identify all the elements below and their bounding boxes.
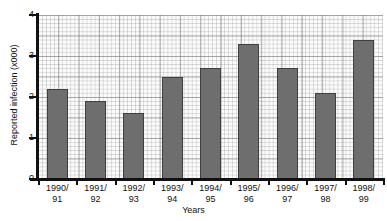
x-category-label-line: 1990/ <box>38 183 76 194</box>
bar <box>315 93 336 179</box>
x-tick-mark <box>383 181 385 185</box>
x-category-label-line: 1998/ <box>345 183 383 194</box>
bar <box>47 89 68 179</box>
y-tick-label: 0 <box>20 174 34 183</box>
x-category-label: 1991/92 <box>76 183 114 204</box>
y-tick-label: 1 <box>20 133 34 142</box>
x-category-label: 1990/91 <box>38 183 76 204</box>
x-category-label-line: 99 <box>345 194 383 205</box>
bar <box>277 68 298 179</box>
x-category-label-line: 98 <box>306 194 344 205</box>
bar-chart-figure: Reported infection (x000) 01234 1990/911… <box>0 0 387 221</box>
x-category-label: 1994/95 <box>191 183 229 204</box>
bar <box>162 77 183 180</box>
x-category-label-line: 1992/ <box>115 183 153 194</box>
x-category-label: 1993/94 <box>153 183 191 204</box>
x-category-label-line: 1993/ <box>153 183 191 194</box>
x-category-label: 1997/98 <box>306 183 344 204</box>
x-category-label-line: 1994/ <box>191 183 229 194</box>
x-category-label: 1996/97 <box>268 183 306 204</box>
plot-area <box>38 15 383 179</box>
x-category-label: 1998/99 <box>345 183 383 204</box>
x-category-label-line: 94 <box>153 194 191 205</box>
x-category-label-line: 95 <box>191 194 229 205</box>
x-category-label-line: 96 <box>230 194 268 205</box>
x-category-label: 1992/93 <box>115 183 153 204</box>
x-category-label-line: 97 <box>268 194 306 205</box>
x-category-label-line: 1997/ <box>306 183 344 194</box>
x-category-label-line: 92 <box>76 194 114 205</box>
x-category-label-line: 1991/ <box>76 183 114 194</box>
y-tick-label: 4 <box>20 10 34 19</box>
x-category-label-line: 1996/ <box>268 183 306 194</box>
x-axis-line <box>30 178 385 181</box>
x-category-label-line: 93 <box>115 194 153 205</box>
x-category-label-line: 91 <box>38 194 76 205</box>
bar <box>353 40 374 179</box>
bar <box>85 101 106 179</box>
y-tick-label: 2 <box>20 92 34 101</box>
x-category-label: 1995/96 <box>230 183 268 204</box>
x-axis-title: Years <box>0 205 387 215</box>
bar <box>123 113 144 179</box>
bar <box>200 68 221 179</box>
y-tick-label: 3 <box>20 51 34 60</box>
y-axis-title: Reported infection (x000) <box>9 15 19 175</box>
x-category-label-line: 1995/ <box>230 183 268 194</box>
bar <box>238 44 259 179</box>
